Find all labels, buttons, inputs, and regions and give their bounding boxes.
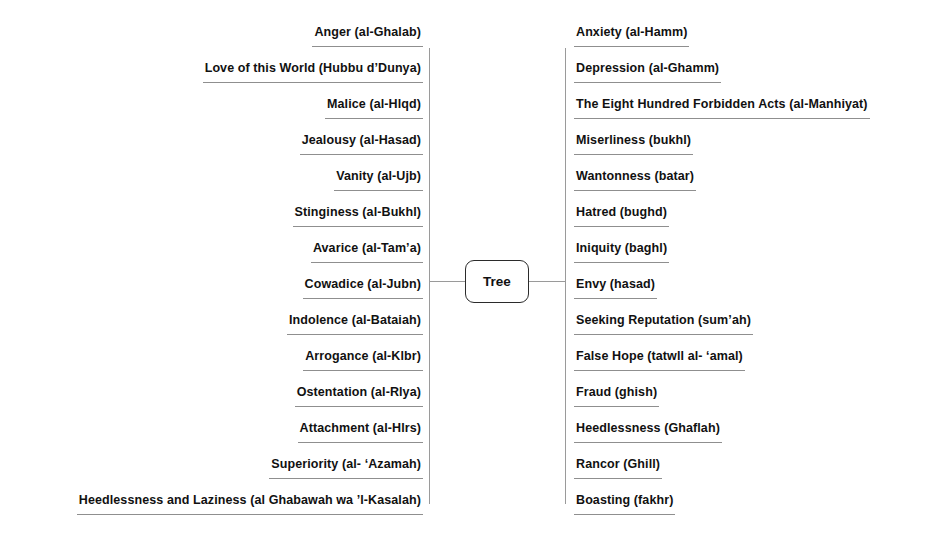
branch-label: Vanity (al-Ujb) [334, 166, 423, 191]
branch-item[interactable]: Attachment (al-Hlrs) [298, 418, 423, 448]
branch-label: Fraud (ghish) [574, 382, 659, 407]
branch-item[interactable]: Hatred (bughd) [574, 202, 669, 232]
branch-label: Love of this World (Hubbu d’Dunya) [203, 58, 423, 83]
branch-label: Anxiety (al-Hamm) [574, 22, 689, 47]
left-branch-column: Anger (al-Ghalab) Love of this World (Hu… [0, 0, 431, 542]
branch-item[interactable]: Wantonness (batar) [574, 166, 696, 196]
branch-label: Attachment (al-Hlrs) [298, 418, 423, 443]
left-spine-line [429, 48, 430, 504]
branch-item[interactable]: Indolence (al-Bataiah) [287, 310, 423, 340]
branch-label: Stinginess (al-Bukhl) [293, 202, 423, 227]
branch-item[interactable]: False Hope (tatwll al- ‘amal) [574, 346, 745, 376]
branch-label: Jealousy (al-Hasad) [300, 130, 423, 155]
branch-item[interactable]: Iniquity (baghl) [574, 238, 669, 268]
branch-label: Ostentation (al-Rlya) [295, 382, 423, 407]
branch-item[interactable]: Seeking Reputation (sum’ah) [574, 310, 753, 340]
branch-item[interactable]: Ostentation (al-Rlya) [295, 382, 423, 412]
mind-map-diagram: Anger (al-Ghalab) Love of this World (Hu… [0, 0, 937, 542]
branch-item[interactable]: Malice (al-Hlqd) [325, 94, 423, 124]
branch-label: Miserliness (bukhl) [574, 130, 693, 155]
branch-item[interactable]: Heedlessness (Ghaflah) [574, 418, 722, 448]
center-node-label: Tree [483, 274, 511, 289]
branch-item[interactable]: Superiority (al- ‘Azamah) [269, 454, 423, 484]
connector-right [528, 281, 566, 282]
branch-item[interactable]: Cowadice (al-Jubn) [303, 274, 423, 304]
branch-label: Wantonness (batar) [574, 166, 696, 191]
branch-label: Cowadice (al-Jubn) [303, 274, 423, 299]
branch-item[interactable]: Stinginess (al-Bukhl) [293, 202, 423, 232]
branch-item[interactable]: Vanity (al-Ujb) [334, 166, 423, 196]
branch-label: Arrogance (al-Klbr) [303, 346, 423, 371]
branch-item[interactable]: Envy (hasad) [574, 274, 657, 304]
branch-item[interactable]: Jealousy (al-Hasad) [300, 130, 423, 160]
branch-item[interactable]: Fraud (ghish) [574, 382, 659, 412]
branch-label: Envy (hasad) [574, 274, 657, 299]
branch-item[interactable]: The Eight Hundred Forbidden Acts (al-Man… [574, 94, 870, 124]
branch-item[interactable]: Rancor (Ghill) [574, 454, 662, 484]
branch-item[interactable]: Boasting (fakhr) [574, 490, 675, 520]
branch-item[interactable]: Miserliness (bukhl) [574, 130, 693, 160]
branch-label: Indolence (al-Bataiah) [287, 310, 423, 335]
branch-item[interactable]: Anxiety (al-Hamm) [574, 22, 689, 52]
branch-item[interactable]: Anger (al-Ghalab) [312, 22, 423, 52]
right-branch-column: Anxiety (al-Hamm) Depression (al-Ghamm) … [565, 0, 937, 542]
branch-item[interactable]: Arrogance (al-Klbr) [303, 346, 423, 376]
branch-label: Iniquity (baghl) [574, 238, 669, 263]
branch-label: Malice (al-Hlqd) [325, 94, 423, 119]
branch-item[interactable]: Love of this World (Hubbu d’Dunya) [203, 58, 423, 88]
branch-label: Rancor (Ghill) [574, 454, 662, 479]
connector-left [429, 281, 466, 282]
branch-label: False Hope (tatwll al- ‘amal) [574, 346, 745, 371]
branch-item[interactable]: Depression (al-Ghamm) [574, 58, 721, 88]
branch-item[interactable]: Avarice (al-Tam’a) [311, 238, 423, 268]
branch-item[interactable]: Heedlessness and Laziness (al Ghabawah w… [77, 490, 423, 520]
branch-label: The Eight Hundred Forbidden Acts (al-Man… [574, 94, 870, 119]
branch-label: Seeking Reputation (sum’ah) [574, 310, 753, 335]
branch-label: Heedlessness and Laziness (al Ghabawah w… [77, 490, 423, 515]
branch-label: Avarice (al-Tam’a) [311, 238, 423, 263]
branch-label: Depression (al-Ghamm) [574, 58, 721, 83]
branch-label: Anger (al-Ghalab) [312, 22, 423, 47]
center-node-tree[interactable]: Tree [465, 260, 529, 303]
branch-label: Boasting (fakhr) [574, 490, 675, 515]
branch-label: Hatred (bughd) [574, 202, 669, 227]
branch-label: Heedlessness (Ghaflah) [574, 418, 722, 443]
branch-label: Superiority (al- ‘Azamah) [269, 454, 423, 479]
